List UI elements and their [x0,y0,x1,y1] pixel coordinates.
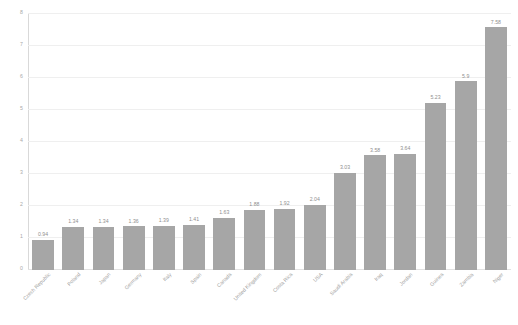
bar-value-label: 1.41 [189,217,199,222]
y-axis-tick-label: 1 [20,234,23,239]
y-axis-tick-label: 3 [20,170,23,175]
bar[interactable] [304,205,326,270]
bar-slot[interactable]: 7.58 [481,14,511,270]
bar-chart: 012345678 0.941.341.341.361.391.411.631.… [0,0,518,325]
bar[interactable] [153,226,175,270]
bar-slot[interactable]: 1.88 [239,14,269,270]
y-axis-tick-label: 8 [20,10,23,15]
y-axis-tick-label: 4 [20,138,23,143]
bar[interactable] [274,209,296,270]
bar[interactable] [93,227,115,270]
bar-value-label: 1.39 [159,218,169,223]
bar[interactable] [364,155,386,270]
bar[interactable] [183,225,205,270]
bar-slot[interactable]: 1.39 [149,14,179,270]
bar-value-label: 5.23 [430,95,440,100]
bar-slot[interactable]: 3.03 [330,14,360,270]
bar-slot[interactable]: 0.94 [28,14,58,270]
bar-value-label: 1.88 [249,202,259,207]
bar-slot[interactable]: 1.36 [119,14,149,270]
bar-value-label: 2.04 [310,197,320,202]
bar-value-label: 3.03 [340,165,350,170]
bar-slot[interactable]: 3.64 [390,14,420,270]
bar-value-label: 1.34 [98,219,108,224]
y-axis-tick-label: 5 [20,106,23,111]
bar-value-label: 0.94 [38,232,48,237]
bar-slot[interactable]: 5.9 [451,14,481,270]
y-axis-tick-label: 6 [20,74,23,79]
bar-value-label: 3.64 [400,146,410,151]
y-axis-tick-label: 2 [20,202,23,207]
plot-area: 012345678 0.941.341.341.361.391.411.631.… [28,14,511,270]
bar[interactable] [32,240,54,270]
bar[interactable] [394,154,416,270]
bar-slot[interactable]: 3.58 [360,14,390,270]
bar-slot[interactable]: 1.92 [270,14,300,270]
bar[interactable] [62,227,84,270]
bar-slot[interactable]: 2.04 [300,14,330,270]
bar-value-label: 5.9 [462,74,469,79]
x-axis-tick-label: Czech Republic [0,272,52,325]
bar-slot[interactable]: 1.34 [88,14,118,270]
bar-value-label: 1.92 [280,201,290,206]
x-axis-labels: Czech RepublicPolandJapanGermanyItalySpa… [28,272,511,324]
bar[interactable] [213,218,235,270]
bar-value-label: 1.63 [219,210,229,215]
bar-slot[interactable]: 1.41 [179,14,209,270]
y-axis-tick-label: 0 [20,266,23,271]
bar[interactable] [455,81,477,270]
bar-value-label: 1.36 [129,219,139,224]
bar-value-label: 1.34 [68,219,78,224]
bar[interactable] [485,27,507,270]
bar[interactable] [334,173,356,270]
bar-value-label: 3.58 [370,148,380,153]
bar[interactable] [425,103,447,270]
bar-value-label: 7.58 [491,20,501,25]
bar-slot[interactable]: 1.34 [58,14,88,270]
y-axis-tick-label: 7 [20,42,23,47]
bar-slot[interactable]: 5.23 [420,14,450,270]
bars-layer: 0.941.341.341.361.391.411.631.881.922.04… [28,14,511,270]
bar[interactable] [244,210,266,270]
bar[interactable] [123,226,145,270]
bar-slot[interactable]: 1.63 [209,14,239,270]
